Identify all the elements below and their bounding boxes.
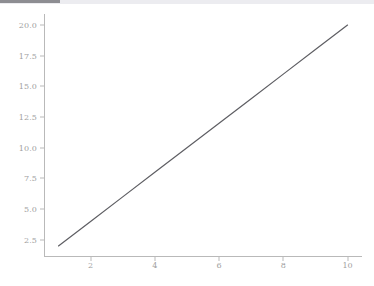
plot-area bbox=[44, 14, 362, 257]
data-line bbox=[58, 25, 347, 246]
horizontal-scrollbar-thumb[interactable] bbox=[0, 0, 60, 3]
y-tick-label: 5.0 bbox=[24, 205, 37, 214]
y-tick-label: 15.0 bbox=[19, 82, 37, 91]
x-tick-label: 8 bbox=[281, 261, 286, 270]
screenshot-canvas: 2.55.07.510.012.515.017.520.0 246810 bbox=[0, 0, 374, 286]
data-series-group bbox=[58, 25, 347, 246]
x-tick-label: 10 bbox=[342, 261, 352, 270]
y-tick-label: 17.5 bbox=[19, 51, 37, 60]
chart-axes: 2.55.07.510.012.515.017.520.0 246810 bbox=[44, 14, 362, 257]
y-tick-label: 2.5 bbox=[24, 235, 37, 244]
x-tick-label: 6 bbox=[217, 261, 222, 270]
y-tick-label: 7.5 bbox=[24, 174, 37, 183]
x-tick-label: 4 bbox=[152, 261, 157, 270]
y-tick-label: 12.5 bbox=[19, 113, 37, 122]
y-tick-label: 10.0 bbox=[19, 143, 37, 152]
y-tick-label: 20.0 bbox=[19, 21, 37, 30]
chart-figure: 2.55.07.510.012.515.017.520.0 246810 bbox=[0, 4, 374, 286]
x-tick-label: 2 bbox=[88, 261, 93, 270]
